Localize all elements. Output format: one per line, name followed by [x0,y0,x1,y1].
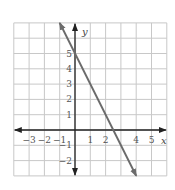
y-tick-label: 2 [66,94,72,104]
coordinate-plane: xy−3−2−1124554321−1−2 [0,0,175,190]
x-tick-label: −2 [38,135,51,145]
x-tick-label: 2 [103,135,109,145]
grid [14,23,167,176]
y-tick-label: 4 [66,64,72,74]
x-tick-label: −3 [22,135,36,145]
y-tick-label: −1 [59,140,72,150]
y-tick-label: −2 [59,156,72,166]
x-tick-label: 5 [149,135,155,145]
y-tick-label: 5 [66,49,72,59]
x-tick-label: 4 [133,135,139,145]
y-axis-label: y [81,26,88,37]
y-tick-label: 3 [66,79,72,89]
y-tick-label: 1 [66,110,72,120]
x-axis-label: x [161,135,167,146]
x-tick-label: 1 [87,135,93,145]
